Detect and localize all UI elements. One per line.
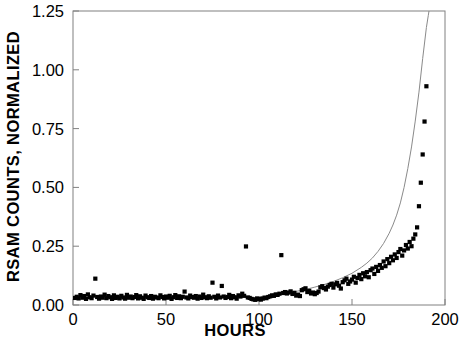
data-point: [316, 289, 320, 293]
x-tick-label: 100: [245, 310, 273, 328]
data-point: [354, 281, 358, 285]
data-point: [298, 294, 302, 298]
data-point: [91, 293, 95, 297]
data-point: [183, 289, 187, 293]
data-point: [413, 232, 417, 236]
data-point: [210, 281, 214, 285]
fit-curve: [259, 4, 430, 297]
data-point: [339, 286, 343, 290]
y-tick-label: 0.25: [32, 237, 64, 255]
data-point: [400, 254, 404, 258]
data-point: [370, 266, 374, 270]
data-point: [385, 257, 389, 261]
data-point: [209, 296, 213, 300]
data-point: [220, 284, 224, 288]
data-point: [421, 152, 425, 156]
data-point: [352, 275, 356, 279]
data-point: [123, 297, 127, 301]
y-tick-label: 1.25: [32, 2, 64, 20]
data-point: [402, 248, 406, 252]
data-point: [391, 258, 395, 262]
data-point: [411, 237, 415, 241]
data-point: [422, 119, 426, 123]
data-point: [398, 247, 402, 251]
data-points-group: [73, 84, 429, 302]
data-point: [383, 264, 387, 268]
data-point: [93, 277, 97, 281]
data-point: [406, 246, 410, 250]
data-point: [357, 273, 361, 277]
fit-curve-group: [259, 4, 430, 297]
data-point: [218, 295, 222, 299]
data-point: [329, 282, 333, 286]
x-tick-label: 150: [338, 310, 366, 328]
x-tick-label: 0: [68, 310, 77, 328]
data-point: [242, 294, 246, 298]
data-point: [387, 261, 391, 265]
data-point: [363, 274, 367, 278]
y-tick-label: 0.50: [32, 178, 64, 196]
data-point: [415, 225, 419, 229]
chart-figure: RSAM COUNTS, NORMALIZED HOURS 0.000.250.…: [0, 0, 470, 343]
y-tick-labels: 0.000.250.500.751.001.25: [32, 2, 64, 314]
data-point: [372, 272, 376, 276]
y-tick-label: 1.00: [32, 61, 64, 79]
x-tick-label: 50: [157, 310, 175, 328]
data-point: [303, 286, 307, 290]
data-point: [395, 256, 399, 260]
data-point: [365, 270, 369, 274]
scatter-plot-canvas: 0.000.250.500.751.001.25 050100150200: [0, 0, 470, 343]
data-point: [382, 259, 386, 263]
data-point: [344, 277, 348, 281]
data-point: [409, 244, 413, 248]
data-point: [380, 266, 384, 270]
data-point: [408, 240, 412, 244]
data-point: [244, 244, 248, 248]
data-point: [181, 295, 185, 299]
data-point: [279, 253, 283, 257]
data-point: [359, 277, 363, 281]
data-point: [84, 297, 88, 301]
data-point: [367, 275, 371, 279]
x-tick-label: 200: [431, 310, 459, 328]
data-point: [277, 292, 281, 296]
data-point: [424, 84, 428, 88]
data-point: [376, 269, 380, 273]
x-tick-labels: 050100150200: [68, 310, 458, 328]
y-tick-label: 0.75: [32, 120, 64, 138]
y-tick-label: 0.00: [32, 296, 64, 314]
data-point: [419, 181, 423, 185]
data-point: [374, 265, 378, 269]
data-point: [417, 204, 421, 208]
